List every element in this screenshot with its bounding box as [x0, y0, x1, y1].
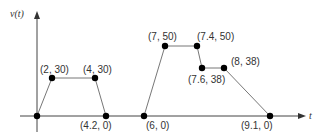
y-axis-label: v(t)	[10, 8, 24, 19]
point-label: (4.2, 0)	[80, 120, 112, 131]
x-axis-label: t	[309, 110, 312, 121]
x-axis-arrow-icon	[298, 113, 306, 119]
point-label: (9.1, 0)	[241, 120, 273, 131]
y-axis-arrow-icon	[34, 11, 40, 19]
point-label: (7.6, 38)	[188, 74, 225, 85]
series-line-1	[37, 78, 106, 116]
point-label: (7.4, 50)	[197, 31, 234, 42]
point-label: (4, 30)	[83, 64, 112, 75]
data-points	[34, 43, 273, 119]
point-label: (6, 0)	[146, 120, 169, 131]
point-label: (7, 50)	[148, 31, 177, 42]
point-label: (2, 30)	[40, 64, 69, 75]
point-label: (8, 38)	[231, 56, 260, 67]
